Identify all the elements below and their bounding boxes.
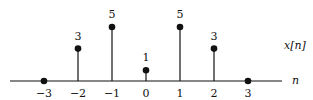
tick-label: 2 [211,87,218,100]
stem-marker [245,78,252,85]
axis-label-n: n [292,74,299,87]
value-label: 5 [177,8,184,21]
value-label: 3 [75,30,82,43]
stem-marker [41,78,48,85]
stem-marker [211,45,218,52]
tick-label: −1 [104,87,120,100]
value-label: 3 [211,30,218,43]
stems: 35153 [41,8,252,84]
tick-label: −3 [36,87,52,100]
series-label-xn: x[n] [284,39,307,52]
stem-marker [109,24,116,31]
value-label: 1 [143,51,150,64]
tick-label: 1 [177,87,184,100]
stem-marker [177,24,184,31]
stem-plot: 35153 −3−2−10123 n x[n] [0,0,313,100]
value-label: 5 [109,8,116,21]
stem-marker [75,45,82,52]
tick-labels: −3−2−10123 [36,87,252,100]
stem-marker [143,67,150,74]
tick-label: −2 [70,87,86,100]
tick-label: 3 [245,87,252,100]
tick-label: 0 [143,87,150,100]
